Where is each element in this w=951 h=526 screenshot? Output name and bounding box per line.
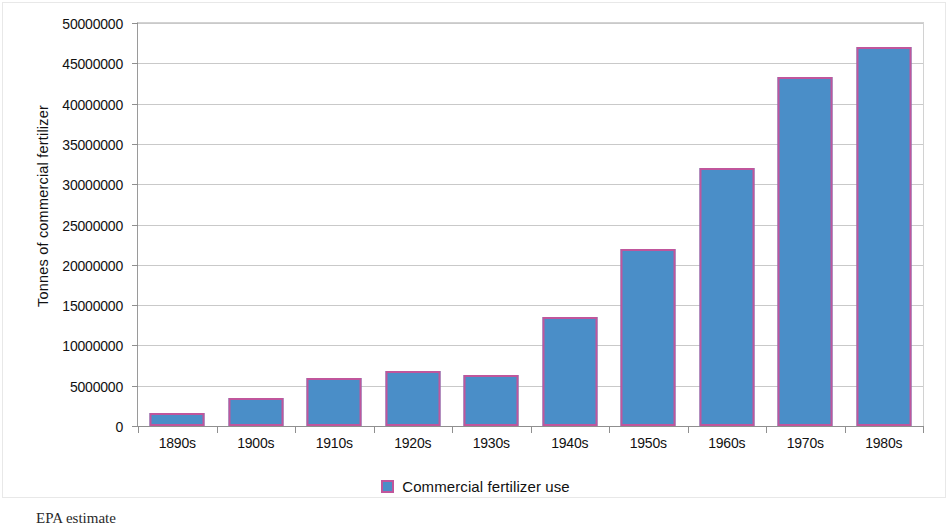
x-axis-tick bbox=[374, 426, 375, 433]
bar bbox=[228, 398, 283, 426]
x-axis-tick bbox=[531, 426, 532, 433]
y-axis-tick-label: 15000000 bbox=[62, 298, 123, 314]
x-axis-tick bbox=[138, 426, 139, 433]
x-axis-label: 1920s bbox=[394, 435, 431, 451]
y-axis-tick-label: 40000000 bbox=[62, 97, 123, 113]
legend-swatch-commercial-fertilizer-use bbox=[381, 480, 394, 493]
bar bbox=[621, 249, 676, 426]
x-axis-tick bbox=[845, 426, 846, 433]
x-axis-label: 1980s bbox=[865, 435, 902, 451]
bar bbox=[699, 168, 754, 426]
x-axis-label: 1890s bbox=[159, 435, 196, 451]
bar-slot bbox=[609, 23, 688, 426]
x-axis-label: 1900s bbox=[237, 435, 274, 451]
bar-slot bbox=[452, 23, 531, 426]
y-axis-tick-label: 50000000 bbox=[62, 16, 123, 32]
bar bbox=[385, 371, 440, 426]
x-axis-tick bbox=[452, 426, 453, 433]
bar-slot bbox=[295, 23, 374, 426]
x-axis-tick bbox=[766, 426, 767, 433]
chart-figure: Tonnes of commercial fertilizer 50000000… bbox=[0, 0, 951, 526]
y-axis-tick-label: 25000000 bbox=[62, 218, 123, 234]
x-axis-tick bbox=[688, 426, 689, 433]
y-axis-tick-label: 20000000 bbox=[62, 258, 123, 274]
y-axis-tick-label: 0 bbox=[115, 419, 123, 435]
bar-slot bbox=[766, 23, 845, 426]
x-axis-label: 1910s bbox=[316, 435, 353, 451]
x-axis-tick bbox=[609, 426, 610, 433]
bar-slot bbox=[217, 23, 296, 426]
y-axis-tick-label: 35000000 bbox=[62, 137, 123, 153]
bar bbox=[464, 375, 519, 426]
x-axis-label: 1940s bbox=[551, 435, 588, 451]
x-axis-label: 1950s bbox=[630, 435, 667, 451]
x-axis-tick bbox=[923, 426, 924, 433]
y-axis-title: Tonnes of commercial fertilizer bbox=[35, 56, 51, 356]
x-axis-label: 1970s bbox=[787, 435, 824, 451]
x-axis-label: 1960s bbox=[708, 435, 745, 451]
bar-slot bbox=[138, 23, 217, 426]
x-axis-tick bbox=[217, 426, 218, 433]
legend-label-commercial-fertilizer-use: Commercial fertilizer use bbox=[402, 478, 570, 495]
bar bbox=[856, 47, 911, 426]
bar bbox=[778, 77, 833, 426]
bar-slot bbox=[845, 23, 924, 426]
x-axis-tick bbox=[295, 426, 296, 433]
bar-slot bbox=[531, 23, 610, 426]
bar-series bbox=[138, 23, 923, 426]
bar-slot bbox=[374, 23, 453, 426]
bar-slot bbox=[688, 23, 767, 426]
bar bbox=[542, 317, 597, 426]
y-axis-tick-label: 45000000 bbox=[62, 56, 123, 72]
figure-caption: EPA estimate bbox=[36, 510, 116, 526]
y-axis-tick-label: 10000000 bbox=[62, 338, 123, 354]
x-axis-label: 1930s bbox=[473, 435, 510, 451]
plot-area: 5000000045000000400000003500000030000000… bbox=[137, 22, 924, 426]
y-axis-tick-label: 30000000 bbox=[62, 177, 123, 193]
bar bbox=[307, 378, 362, 426]
chart-legend: Commercial fertilizer use bbox=[0, 478, 951, 495]
bar bbox=[150, 413, 205, 426]
y-axis-tick-label: 5000000 bbox=[70, 379, 123, 395]
